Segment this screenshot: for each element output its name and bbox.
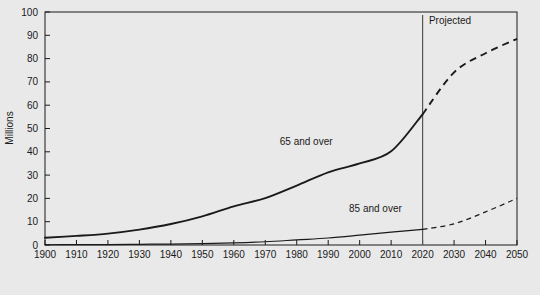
x-tick-label: 2000: [349, 249, 372, 260]
y-tick-label: 60: [27, 100, 39, 111]
x-tick-label: 1950: [191, 249, 214, 260]
x-tick-label: 1990: [317, 249, 340, 260]
x-tick-label: 1980: [286, 249, 309, 260]
x-tick-label: 1920: [97, 249, 120, 260]
x-tick-label: 2020: [411, 249, 434, 260]
x-tick-label: 1960: [223, 249, 246, 260]
x-tick-label: 1900: [34, 249, 57, 260]
population-projection-chart: 0102030405060708090100 19001910192019301…: [0, 0, 540, 295]
x-tick-label: 1970: [254, 249, 277, 260]
x-tick-label: 1910: [65, 249, 88, 260]
y-tick-label: 100: [21, 7, 38, 18]
chart-annotation-label: Projected: [429, 15, 471, 26]
x-tick-label: 2030: [443, 249, 466, 260]
x-tick-label: 1930: [128, 249, 151, 260]
y-tick-label: 80: [27, 53, 39, 64]
y-axis-title: Millions: [4, 111, 15, 144]
y-tick-label: 70: [27, 76, 39, 87]
chart-annotation-label: 85 and over: [349, 203, 402, 214]
x-tick-label: 2050: [506, 249, 529, 260]
x-tick-label: 1940: [160, 249, 183, 260]
y-tick-label: 40: [27, 146, 39, 157]
y-tick-label: 20: [27, 193, 39, 204]
y-tick-label: 10: [27, 216, 39, 227]
y-tick-label: 90: [27, 30, 39, 41]
y-tick-label: 50: [27, 123, 39, 134]
chart-annotation-label: 65 and over: [280, 136, 333, 147]
x-tick-label: 2010: [380, 249, 403, 260]
x-tick-label: 2040: [474, 249, 497, 260]
chart-svg: 0102030405060708090100 19001910192019301…: [0, 0, 540, 295]
y-tick-label: 30: [27, 170, 39, 181]
